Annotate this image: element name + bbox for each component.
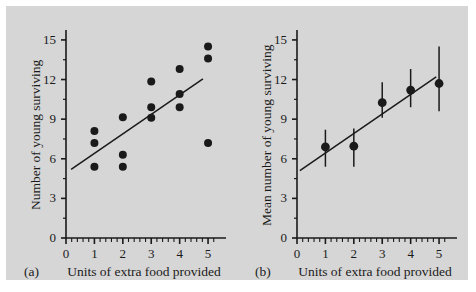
data-point: [90, 139, 98, 147]
data-point: [204, 139, 212, 147]
y-tick-label: 15: [265, 32, 287, 48]
data-point: [119, 113, 127, 121]
data-point: [176, 90, 184, 98]
data-point: [406, 86, 415, 95]
x-tick-label: 0: [58, 246, 74, 262]
data-point: [147, 78, 155, 86]
regression-line: [300, 77, 436, 171]
panel-a-letter: (a): [24, 264, 39, 280]
x-tick-label: 4: [172, 246, 188, 262]
y-tick-label: 12: [34, 72, 56, 88]
data-point: [147, 114, 155, 122]
x-tick-label: 3: [143, 246, 159, 262]
y-tick-label: 6: [265, 151, 287, 167]
x-tick-label: 1: [86, 246, 102, 262]
data-point: [147, 103, 155, 111]
y-tick-label: 9: [34, 111, 56, 127]
panel-b: Mean number of young surviving Units of …: [237, 6, 468, 280]
panel-a-x-axis-title: Units of extra food provided: [58, 264, 230, 280]
figure-container: Number of young surviving Units of extra…: [6, 6, 468, 280]
data-point: [90, 127, 98, 135]
x-tick-label: 0: [289, 246, 305, 262]
data-point: [204, 54, 212, 62]
x-tick-label: 4: [403, 246, 419, 262]
data-point: [435, 79, 444, 88]
data-point: [378, 98, 387, 107]
y-tick-label: 15: [34, 32, 56, 48]
y-tick-label: 6: [34, 151, 56, 167]
y-tick-label: 9: [265, 111, 287, 127]
data-point: [204, 43, 212, 51]
y-tick-label: 0: [34, 230, 56, 246]
data-point: [90, 163, 98, 171]
y-tick-label: 3: [34, 190, 56, 206]
data-point: [349, 142, 358, 151]
x-tick-label: 5: [431, 246, 447, 262]
x-tick-label: 3: [374, 246, 390, 262]
x-tick-label: 2: [115, 246, 131, 262]
panel-b-x-axis-title: Units of extra food provided: [289, 264, 461, 280]
panel-a: Number of young surviving Units of extra…: [6, 6, 237, 280]
data-point: [119, 151, 127, 159]
data-point: [119, 163, 127, 171]
panel-b-letter: (b): [255, 264, 271, 280]
x-tick-label: 1: [317, 246, 333, 262]
data-point: [176, 103, 184, 111]
y-tick-label: 12: [265, 72, 287, 88]
data-point: [176, 65, 184, 73]
x-tick-label: 5: [200, 246, 216, 262]
y-tick-label: 3: [265, 190, 287, 206]
x-tick-label: 2: [346, 246, 362, 262]
y-tick-label: 0: [265, 230, 287, 246]
data-point: [321, 142, 330, 151]
